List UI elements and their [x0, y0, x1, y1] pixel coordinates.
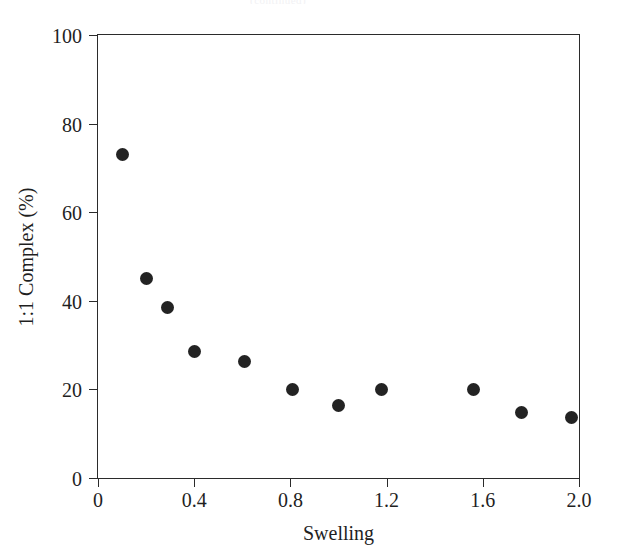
y-axis-tick-label: 100: [52, 26, 82, 46]
x-axis-tick: [483, 478, 484, 487]
x-axis-tick-label: 0.8: [278, 490, 303, 510]
y-axis-tick-label: 60: [62, 203, 82, 223]
x-axis-title: Swelling: [303, 522, 374, 545]
x-axis-tick-label: 0: [93, 490, 103, 510]
x-axis-tick: [579, 478, 580, 487]
x-axis-tick: [98, 478, 99, 487]
x-axis-tick-label: 1.6: [470, 490, 495, 510]
x-axis-tick: [290, 478, 291, 487]
scatter-point: [238, 355, 251, 368]
x-axis-tick-label: 0.4: [182, 490, 207, 510]
scatter-point: [140, 272, 153, 285]
y-axis-tick: 0: [89, 478, 98, 479]
scatter-point: [286, 383, 299, 396]
x-axis-tick-label: 2.0: [567, 490, 592, 510]
scatter-point: [332, 399, 345, 412]
y-axis-tick: 40: [89, 301, 98, 302]
scatter-point: [375, 383, 388, 396]
scatter-point: [515, 406, 528, 419]
x-axis-tick-label: 1.2: [374, 490, 399, 510]
scatter-point: [161, 301, 174, 314]
y-axis-tick-label: 80: [62, 115, 82, 135]
chart-figure: (continued) 1:1 Complex (%) Swelling 020…: [0, 0, 630, 552]
y-axis-title: 1:1 Complex (%): [15, 187, 38, 326]
x-axis-tick: [194, 478, 195, 487]
scatter-point: [188, 345, 201, 358]
scatter-point: [467, 383, 480, 396]
y-axis-tick-label: 20: [62, 380, 82, 400]
y-axis-tick: 20: [89, 389, 98, 390]
scatter-point: [116, 148, 129, 161]
x-axis-tick: [387, 478, 388, 487]
y-axis-tick: 60: [89, 212, 98, 213]
y-axis-tick-label: 40: [62, 292, 82, 312]
clipped-caption-text: (continued): [250, 0, 630, 4]
y-axis-tick: 100: [89, 35, 98, 36]
plot-frame: 1:1 Complex (%) Swelling 02040608010000.…: [97, 34, 580, 479]
plot-data-area: [98, 35, 579, 478]
scatter-point: [565, 411, 578, 424]
y-axis-tick: 80: [89, 124, 98, 125]
y-axis-tick-label: 0: [72, 469, 82, 489]
